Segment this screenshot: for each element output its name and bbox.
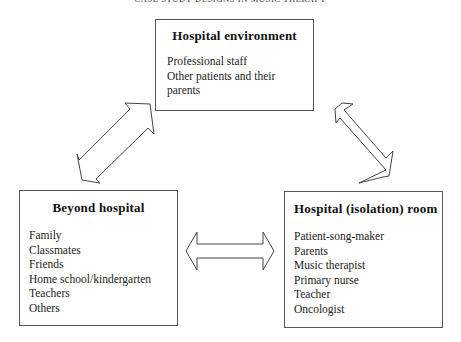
node-item: Others — [29, 301, 177, 316]
node-item: Parents — [294, 244, 442, 259]
node-item: Music therapist — [294, 258, 442, 273]
node-item-list: Family Classmates Friends Home school/ki… — [29, 228, 177, 315]
node-item-list: Patient-song-maker Parents Music therapi… — [294, 229, 442, 316]
double-arrow-left-diagonal — [77, 103, 154, 183]
node-title: Hospital (isolation) room — [285, 201, 442, 217]
node-item: Teacher — [294, 287, 442, 302]
node-item: Friends — [29, 257, 177, 272]
double-arrow-left-diagonal-shape — [77, 103, 154, 183]
node-item: Classmates — [29, 243, 177, 258]
double-arrow-horizontal-shape — [186, 232, 274, 270]
node-hospital-environment: Hospital environment Professional staff … — [155, 19, 314, 111]
node-item: Oncologist — [294, 302, 442, 317]
double-arrow-horizontal — [186, 232, 274, 270]
node-item: Primary nurse — [294, 273, 442, 288]
node-item: Professional staff — [167, 54, 307, 69]
node-hospital-isolation-room: Hospital (isolation) room Patient-song-m… — [284, 191, 443, 328]
node-item: Home school/kindergarten — [29, 272, 177, 287]
node-item: Patient-song-maker — [294, 229, 442, 244]
node-item: Family — [29, 228, 177, 243]
double-arrow-right-diagonal-shape — [335, 103, 393, 183]
node-title: Hospital environment — [156, 28, 313, 44]
node-item: Other patients and their parents — [167, 69, 307, 98]
node-item-list: Professional staff Other patients and th… — [167, 54, 307, 98]
double-arrow-right-diagonal — [335, 103, 393, 183]
node-title: Beyond hospital — [20, 200, 177, 216]
node-beyond-hospital: Beyond hospital Family Classmates Friend… — [19, 190, 178, 326]
node-item: Teachers — [29, 286, 177, 301]
